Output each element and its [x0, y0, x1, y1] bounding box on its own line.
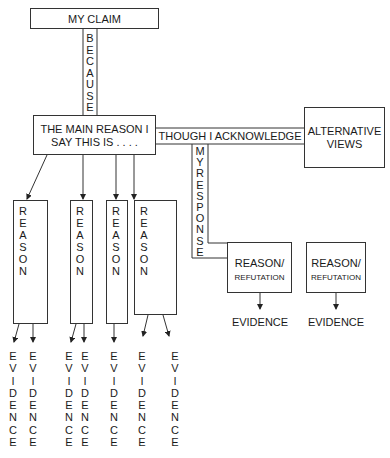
reason-box-2: REASON [70, 200, 93, 324]
evidence-4b: EVIDENCE [168, 350, 182, 448]
refutation-box-2: REASON/ REFUTATION [306, 242, 366, 293]
refutation-1-line1: REASON/ [228, 257, 291, 270]
main-reason-box: THE MAIN REASON I SAY THIS IS . . . . [33, 115, 156, 155]
reason-box-4: REASON [134, 200, 177, 315]
refutation-box-1: REASON/ REFUTATION [227, 242, 292, 293]
evidence-1b: EVIDENCE [26, 350, 40, 448]
alternative-views-box: ALTERNATIVE VIEWS [304, 107, 385, 168]
because-label: BECAUSE [83, 33, 97, 114]
claim-box: MY CLAIM [30, 8, 159, 29]
alternative-views-line1: ALTERNATIVE [305, 125, 384, 138]
though-acknowledge-label: THOUGH I ACKNOWLEDGE [156, 130, 304, 143]
refutation-1-line2: REFUTATION [228, 271, 291, 284]
reason-label-1: REASON [16, 205, 30, 277]
evidence-1a: EVIDENCE [6, 350, 20, 448]
evidence-3a: EVIDENCE [107, 350, 121, 448]
refutation-2-evidence: EVIDENCE [298, 316, 374, 329]
evidence-2b: EVIDENCE [78, 350, 92, 448]
reason-box-3: REASON [106, 200, 128, 324]
reason-label-2: REASON [73, 205, 87, 277]
refutation-2-line1: REASON/ [307, 257, 365, 270]
reason-label-3: REASON [109, 205, 123, 277]
alternative-views-line2: VIEWS [305, 138, 384, 151]
main-reason-line1: THE MAIN REASON I [34, 123, 155, 136]
evidence-4a: EVIDENCE [135, 350, 149, 448]
reason-box-1: REASON [13, 200, 48, 324]
refutation-2-line2: REFUTATION [307, 271, 365, 284]
claim-label: MY CLAIM [31, 13, 158, 26]
refutation-1-evidence: EVIDENCE [222, 316, 298, 329]
evidence-2a: EVIDENCE [62, 350, 76, 448]
reason-label-4: REASON [137, 205, 151, 277]
my-response-label: MYRESPONSE [192, 146, 208, 258]
main-reason-line2: SAY THIS IS . . . . [34, 136, 155, 149]
